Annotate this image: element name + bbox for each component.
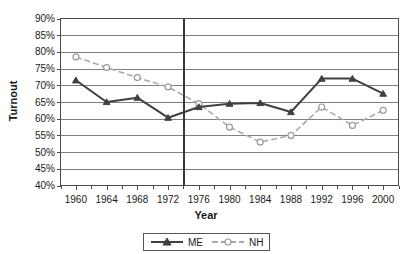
y-tick-label: 65% — [35, 97, 55, 108]
y-tick-label: 55% — [35, 130, 55, 141]
x-tick-label: 1960 — [65, 194, 88, 205]
x-tick-label: 1992 — [311, 194, 334, 205]
y-tick-label: 70% — [35, 80, 55, 91]
y-tick-label: 50% — [35, 147, 55, 158]
data-point-nh — [73, 54, 79, 60]
series-me-markers — [72, 75, 386, 120]
legend-nh-circle-icon — [225, 239, 231, 245]
data-point-nh — [104, 65, 110, 71]
x-tick-label: 1984 — [249, 194, 272, 205]
y-tick-label: 60% — [35, 113, 55, 124]
data-point-nh — [349, 122, 355, 128]
chart-canvas: Turnout 90%85%80%75%70%65%60%55%50%45%40… — [0, 0, 412, 254]
data-point-nh — [380, 107, 386, 113]
y-tick-label: 40% — [35, 180, 55, 191]
data-point-nh — [257, 139, 263, 145]
legend-label-me: ME — [188, 237, 203, 248]
y-axis-tick-labels: 90%85%80%75%70%65%60%55%50%45%40% — [35, 13, 55, 191]
turnout-line-chart: Turnout 90%85%80%75%70%65%60%55%50%45%40… — [0, 0, 412, 254]
data-point-me — [72, 77, 79, 83]
y-tick-label: 85% — [35, 30, 55, 41]
x-tick-label: 1964 — [95, 194, 118, 205]
y-tick-label: 75% — [35, 63, 55, 74]
x-axis-tick-marks — [62, 186, 400, 190]
data-point-nh — [134, 75, 140, 81]
y-tick-label: 80% — [35, 46, 55, 57]
data-point-nh — [319, 104, 325, 110]
x-tick-label: 1976 — [188, 194, 211, 205]
series-me-line — [76, 79, 383, 118]
legend-label-nh: NH — [249, 237, 263, 248]
x-tick-label: 1996 — [341, 194, 364, 205]
chart-legend: ME NH — [144, 234, 270, 251]
x-axis-title: Year — [194, 209, 218, 221]
data-point-nh — [288, 132, 294, 138]
x-tick-label: 2000 — [372, 194, 395, 205]
y-tick-label: 90% — [35, 13, 55, 24]
x-tick-label: 1988 — [280, 194, 303, 205]
x-tick-label: 1972 — [157, 194, 180, 205]
x-axis-tick-labels: 1960196419681972197619801984198819921996… — [65, 194, 395, 205]
data-point-nh — [165, 84, 171, 90]
data-point-nh — [227, 124, 233, 130]
y-axis-tick-marks — [57, 20, 61, 187]
y-tick-label: 45% — [35, 163, 55, 174]
x-tick-label: 1980 — [218, 194, 241, 205]
y-axis-title: Turnout — [7, 80, 19, 121]
x-tick-label: 1968 — [126, 194, 149, 205]
